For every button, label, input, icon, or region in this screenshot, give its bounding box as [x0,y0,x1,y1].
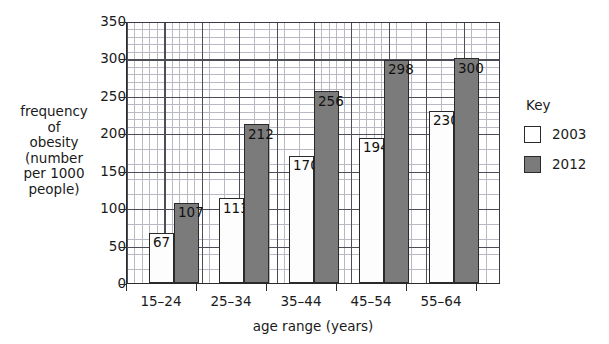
x-axis-tick-mark [336,284,337,291]
bar-2012-55-64: 300 [454,58,479,283]
bar-2003-55-64: 230 [429,111,454,283]
x-axis-category-label: 25–34 [196,294,266,309]
x-axis-label: age range (years) [126,318,500,334]
bar-2012-45-54: 298 [384,60,409,283]
legend: Key 20032012 [524,98,606,186]
x-axis-category-label: 45–54 [336,294,406,309]
gray-square-swatch [524,156,541,173]
bar-value-label: 300 [458,61,484,76]
bar-value-label: 298 [388,62,414,77]
bar-value-label: 212 [248,127,274,142]
bar-chart: frequency of obesity (number per 1000 pe… [0,0,609,344]
x-axis-tick-mark [266,284,267,291]
x-axis-category-label: 55–64 [406,294,476,309]
x-axis-tick-mark [476,284,477,291]
legend-entries: 20032012 [524,126,606,173]
legend-title: Key [524,98,606,113]
x-axis-tick-mark [126,284,127,291]
legend-entry-label: 2003 [552,127,586,142]
y-axis-label: frequency of obesity (number per 1000 pe… [8,104,100,197]
x-axis-tick-mark [196,284,197,291]
bar-2012-25-34: 212 [244,124,269,283]
x-axis-tick-mark [406,284,407,291]
bar-value-label: 256 [318,94,344,109]
bar-value-label: 107 [178,205,204,220]
x-axis-category-label: 35–44 [266,294,336,309]
bar-2012-35-44: 256 [314,91,339,283]
bar-2012-15-24: 107 [174,203,199,283]
plot-area: 67107113212170256194298230300 [126,22,500,284]
bar-2003-35-44: 170 [289,156,314,283]
bar-2003-45-54: 194 [359,138,384,283]
legend-entry-label: 2012 [552,157,586,172]
legend-entry-2012: 2012 [524,156,606,173]
x-axis-category-label: 15–24 [126,294,196,309]
bar-value-label: 67 [153,235,170,250]
bar-2003-15-24: 67 [149,233,174,283]
bar-2003-25-34: 113 [219,198,244,283]
white-square-swatch [524,126,541,143]
legend-entry-2003: 2003 [524,126,606,143]
